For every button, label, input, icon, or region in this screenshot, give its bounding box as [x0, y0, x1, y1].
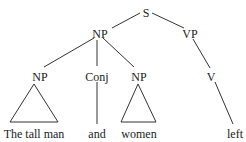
triangle-np-left: [10, 84, 58, 122]
leaf-and: and: [88, 127, 105, 141]
syntax-tree: S NP VP NP Conj NP V The tall man and wo…: [0, 0, 246, 142]
edge-s-vp: [152, 13, 184, 28]
leaf-the-tall-man: The tall man: [4, 127, 65, 141]
edge-np-npright: [103, 38, 134, 67]
node-np-left: NP: [32, 70, 48, 84]
triangle-np-right: [121, 84, 156, 122]
leaf-women: women: [121, 127, 156, 141]
edge-s-np: [112, 13, 140, 28]
edge-np-npleft: [44, 38, 94, 67]
node-vp: VP: [182, 27, 198, 41]
edge-vp-v: [193, 39, 210, 68]
node-np-main: NP: [92, 27, 108, 41]
node-conj: Conj: [85, 70, 108, 84]
node-v: V: [207, 70, 216, 84]
node-np-right: NP: [131, 70, 147, 84]
edge-v-left: [215, 82, 233, 124]
leaf-left: left: [227, 127, 244, 141]
node-s: S: [143, 6, 150, 20]
